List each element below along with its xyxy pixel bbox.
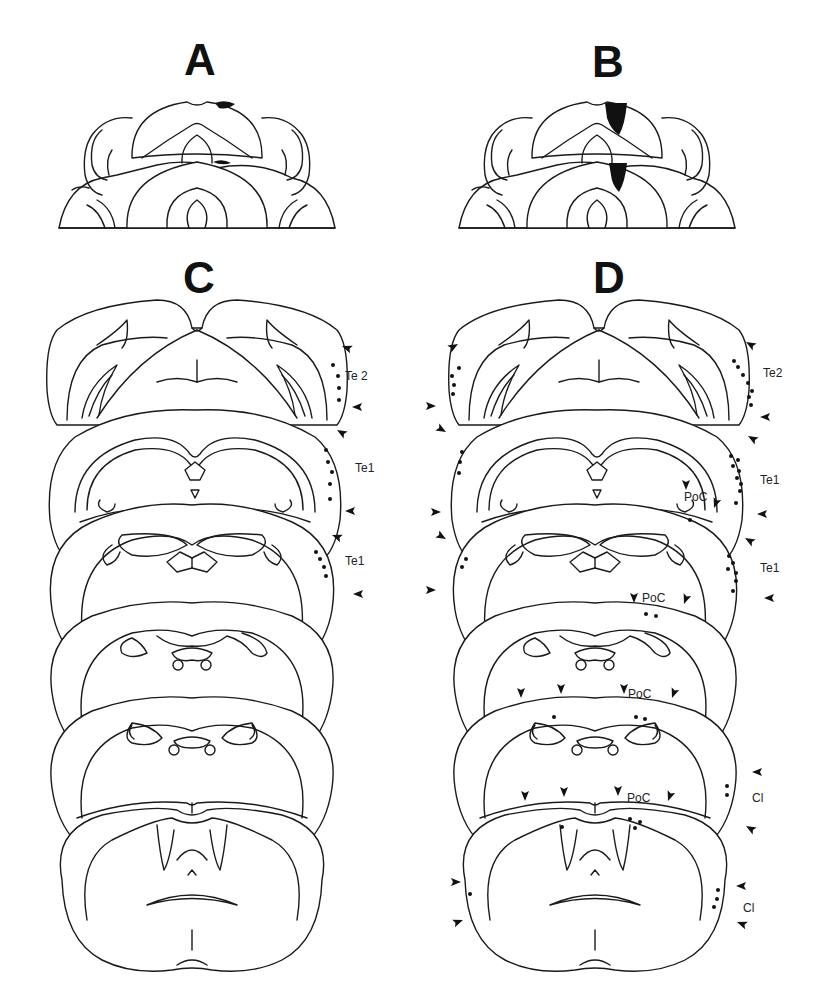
label-c-te2: Te 2 [345,369,368,383]
panel-c-series: Te 2 Te1 Te1 [47,300,375,971]
figure-drawing: Te 2 Te1 Te1 [0,0,819,1006]
label-d-te1-a: Te1 [760,473,780,487]
label-d-poc-4: PoC [627,791,651,805]
label-d-te2: Te2 [763,366,783,380]
lesion-a-lower [213,160,231,164]
label-d-poc-1: PoC [684,490,708,504]
label-d-poc-2: PoC [642,591,666,605]
label-c-te1-a: Te1 [355,461,375,475]
label-d-te1-b: Te1 [760,561,780,575]
label-c-te1-b: Te1 [345,554,365,568]
label-d-poc-3: PoC [628,687,652,701]
panel-a-section [59,101,335,228]
label-d-cl-1: Cl [752,791,763,805]
panel-b-section [459,102,735,228]
panel-d-series: Te2 Te1 PoC Te1 PoC PoC Cl PoC Cl [426,300,783,971]
label-d-cl-2: Cl [743,901,754,915]
